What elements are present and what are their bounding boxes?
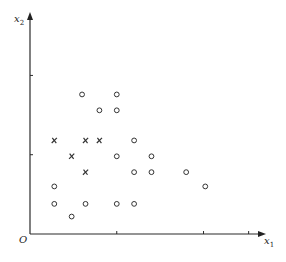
circle-point	[132, 170, 137, 175]
y-axis-label: x2	[14, 13, 24, 27]
cross-point	[83, 138, 88, 143]
circle-point	[114, 201, 119, 206]
cross-point	[97, 138, 102, 143]
cross-point	[52, 138, 57, 143]
scatter-chart: O x1 x2	[0, 0, 286, 262]
data-points	[52, 92, 208, 219]
circle-point	[203, 184, 208, 189]
x-axis-label-subscript: 1	[270, 241, 274, 249]
circle-point	[97, 108, 102, 113]
circle-point	[52, 184, 57, 189]
circle-point	[83, 201, 88, 206]
cross-point	[83, 170, 88, 175]
circle-point	[132, 201, 137, 206]
axis-ticks	[30, 75, 249, 234]
circle-point	[114, 108, 119, 113]
circle-point	[114, 154, 119, 159]
origin-label: O	[19, 234, 27, 245]
circle-point	[149, 154, 154, 159]
circle-point	[52, 201, 57, 206]
cross-point	[69, 154, 74, 159]
circle-point	[80, 92, 85, 97]
circle-point	[149, 170, 154, 175]
circle-point	[69, 214, 74, 219]
x-axis-label: x1	[264, 235, 274, 249]
circle-point	[132, 138, 137, 143]
y-axis-label-subscript: 2	[20, 19, 24, 27]
circle-point	[184, 170, 189, 175]
circle-point	[114, 92, 119, 97]
axes	[27, 12, 266, 237]
y-axis-arrowhead	[27, 12, 33, 20]
